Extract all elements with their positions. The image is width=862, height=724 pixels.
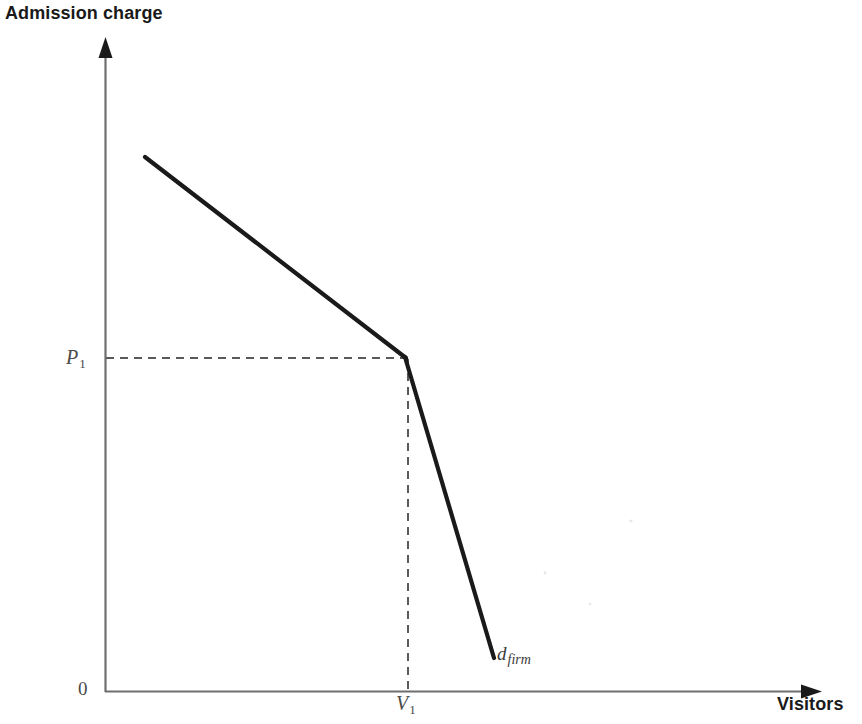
price-axis-label-subscript: 1 bbox=[79, 356, 86, 371]
scan-speck bbox=[589, 603, 592, 606]
price-axis-label: P1 bbox=[66, 346, 85, 369]
y-axis-arrowhead bbox=[99, 37, 113, 58]
kinked-demand-curve-figure: Admission charge Visitors 0 P1 V1 d bbox=[0, 0, 862, 724]
plot-area bbox=[0, 0, 862, 724]
demand-curve-label-symbol: d bbox=[497, 643, 507, 664]
demand-curve-upper-segment bbox=[145, 157, 406, 358]
quantity-axis-label-subscript: 1 bbox=[409, 702, 416, 717]
demand-curve-label: dfirm bbox=[497, 643, 530, 665]
quantity-axis-label: V1 bbox=[396, 692, 415, 715]
demand-curve-lower-segment bbox=[405, 357, 494, 658]
quantity-axis-label-symbol: V bbox=[396, 692, 408, 714]
x-axis-arrowhead bbox=[801, 685, 822, 699]
demand-curve-label-subscript: firm bbox=[508, 652, 531, 667]
scan-speck bbox=[629, 519, 632, 522]
price-axis-label-symbol: P bbox=[66, 346, 78, 368]
scan-speck bbox=[544, 572, 547, 575]
origin-label: 0 bbox=[78, 678, 88, 700]
